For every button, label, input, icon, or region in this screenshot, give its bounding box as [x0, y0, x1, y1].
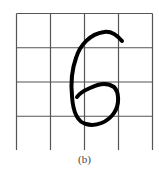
- handwriting-grid-figure: [0, 0, 159, 150]
- grid: [17, 14, 153, 151]
- handwritten-digit-six: [71, 32, 122, 125]
- figure-caption: (b): [0, 153, 159, 165]
